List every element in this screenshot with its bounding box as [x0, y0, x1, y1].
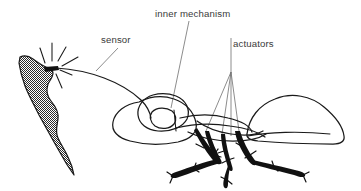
label-actuators: actuators [233, 38, 274, 49]
stippled-obstacle-shape [19, 56, 74, 175]
inner-mechanism-core [150, 108, 175, 128]
insect-head-outline [113, 97, 197, 144]
inner-mechanism-blob [138, 94, 188, 132]
leg-front-left [167, 128, 221, 183]
antenna-curve [56, 68, 151, 118]
label-inner-mechanism: inner mechanism [155, 8, 230, 19]
insect-thorax-outline [180, 115, 252, 132]
actuators-leader-fan [206, 38, 239, 136]
diagram-canvas: inner mechanism sensor actuators [0, 0, 361, 191]
label-sensor: sensor [101, 34, 131, 45]
leg-mid-center [221, 134, 234, 188]
insect-robot-diagram: inner mechanism sensor actuators [0, 0, 361, 191]
leg-rear-right [235, 131, 309, 182]
sensor-leader-line [96, 48, 118, 71]
